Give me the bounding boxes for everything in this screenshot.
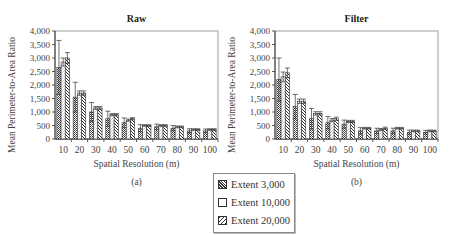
y-tick-label: 0 <box>266 134 271 144</box>
legend-item-extent-20000: Extent 20,000 <box>218 214 290 228</box>
y-axis-label: Mean Perimeter-to-Area Ratio <box>227 37 237 153</box>
legend: Extent 3,000 Extent 10,000 Extent 20,000 <box>213 173 295 233</box>
chart-title: Filter <box>345 13 369 24</box>
y-tick-label: 1,000 <box>30 107 51 117</box>
bar <box>314 113 318 139</box>
x-tick-label: 60 <box>360 145 370 155</box>
x-tick-label: 80 <box>173 145 183 155</box>
bar <box>143 126 147 140</box>
x-tick-label: 30 <box>91 145 101 155</box>
swatch-dense-cross-icon <box>218 180 227 189</box>
chart-filter-svg: Filter05001,0001,5002,0002,5003,0003,500… <box>220 0 445 200</box>
bar <box>94 108 98 139</box>
x-tick-label: 30 <box>311 145 321 155</box>
y-tick-label: 1,500 <box>250 94 271 104</box>
bar <box>212 130 216 139</box>
bar <box>130 119 134 139</box>
bar <box>196 130 200 139</box>
x-axis-label: Spatial Resolution (m) <box>93 159 179 170</box>
chart-caption: (b) <box>351 177 362 188</box>
legend-label: Extent 10,000 <box>231 197 290 208</box>
bar <box>399 128 403 139</box>
legend-label: Extent 3,000 <box>231 179 285 190</box>
legend-item-extent-10000: Extent 10,000 <box>218 196 290 210</box>
y-tick-label: 3,500 <box>30 40 51 50</box>
bar <box>302 101 306 139</box>
y-tick-label: 0 <box>46 134 51 144</box>
y-tick-label: 2,500 <box>250 67 271 77</box>
bar <box>428 131 432 139</box>
bar <box>77 93 81 139</box>
y-tick-label: 4,000 <box>250 26 271 36</box>
bar <box>163 126 167 140</box>
bar <box>126 120 130 139</box>
x-axis-label: Spatial Resolution (m) <box>313 159 399 170</box>
x-tick-label: 60 <box>140 145 150 155</box>
x-tick-label: 40 <box>107 145 117 155</box>
bar <box>110 115 114 139</box>
y-axis-label: Mean Perimeter-to-Area Ratio <box>7 37 17 153</box>
legend-item-extent-3000: Extent 3,000 <box>218 178 285 192</box>
bar <box>208 130 212 139</box>
x-tick-label: 100 <box>203 145 218 155</box>
x-tick-label: 90 <box>189 145 199 155</box>
bar <box>411 131 415 139</box>
bar <box>334 119 338 139</box>
bar <box>297 101 301 139</box>
bar <box>175 127 179 139</box>
x-tick-label: 10 <box>58 145 68 155</box>
bar <box>395 128 399 139</box>
swatch-diagonal-icon <box>218 216 227 225</box>
y-tick-label: 1,000 <box>250 107 271 117</box>
chart-raw-svg: Raw05001,0001,5002,0002,5003,0003,5004,0… <box>0 0 225 200</box>
y-tick-label: 2,000 <box>250 80 271 90</box>
bar <box>318 113 322 139</box>
bar <box>416 131 420 139</box>
bar <box>159 126 163 140</box>
y-tick-label: 1,500 <box>30 94 51 104</box>
legend-label: Extent 20,000 <box>231 215 290 226</box>
bar <box>350 121 354 139</box>
chart-filter: Filter05001,0001,5002,0002,5003,0003,500… <box>220 0 445 200</box>
x-tick-label: 70 <box>156 145 166 155</box>
bar <box>281 77 285 139</box>
bar <box>179 127 183 139</box>
bar <box>285 73 289 139</box>
bar <box>114 115 118 139</box>
x-tick-label: 70 <box>376 145 386 155</box>
x-tick-label: 20 <box>295 145 305 155</box>
y-tick-label: 2,000 <box>30 80 51 90</box>
y-tick-label: 500 <box>37 121 51 131</box>
chart-caption: (a) <box>131 177 142 188</box>
bar <box>330 120 334 139</box>
bar <box>61 62 65 139</box>
chart-title: Raw <box>127 13 147 24</box>
y-tick-label: 500 <box>257 121 271 131</box>
bar <box>191 130 195 139</box>
x-tick-label: 50 <box>124 145 134 155</box>
x-tick-label: 90 <box>409 145 419 155</box>
y-tick-label: 2,500 <box>30 67 51 77</box>
x-tick-label: 10 <box>278 145 288 155</box>
chart-raw: Raw05001,0001,5002,0002,5003,0003,5004,0… <box>0 0 225 200</box>
x-tick-label: 50 <box>344 145 354 155</box>
y-tick-label: 4,000 <box>30 26 51 36</box>
x-tick-label: 20 <box>75 145 85 155</box>
x-tick-label: 100 <box>423 145 438 155</box>
bar <box>346 121 350 139</box>
bar <box>82 93 86 139</box>
swatch-white-icon <box>218 198 227 207</box>
bar <box>363 128 367 139</box>
y-tick-label: 3,000 <box>30 53 51 63</box>
y-tick-label: 3,000 <box>250 53 271 63</box>
x-tick-label: 40 <box>327 145 337 155</box>
bar <box>383 128 387 139</box>
bar <box>367 128 371 139</box>
x-tick-label: 80 <box>393 145 403 155</box>
y-tick-label: 3,500 <box>250 40 271 50</box>
bar <box>65 58 69 139</box>
bar <box>432 131 436 139</box>
bar <box>147 126 151 140</box>
bar <box>98 108 102 139</box>
